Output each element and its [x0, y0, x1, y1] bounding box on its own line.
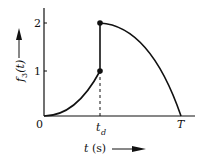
origin-label: 0 [36, 118, 43, 131]
marker-td-1 [97, 68, 103, 74]
y-axis-arrow-icon [16, 28, 22, 40]
rising-curve [44, 71, 100, 116]
y-axis-label-arg: (t) [14, 60, 27, 73]
x-axis-label: t (s) [84, 142, 106, 155]
y-axis-label: f3(t) [14, 60, 29, 83]
x-tick-label-td-sub: d [101, 128, 106, 137]
falling-curve [100, 23, 181, 116]
chart: 2 1 0 t d T t (s) f3(t) [0, 0, 205, 162]
marker-td-2 [97, 20, 103, 26]
x-axis-arrow-icon [132, 146, 146, 152]
x-tick-label-T: T [177, 118, 186, 131]
x-axis-label-unit: (s) [88, 142, 106, 155]
y-tick-label-1: 1 [34, 65, 41, 78]
y-tick-label-2: 2 [34, 17, 41, 30]
